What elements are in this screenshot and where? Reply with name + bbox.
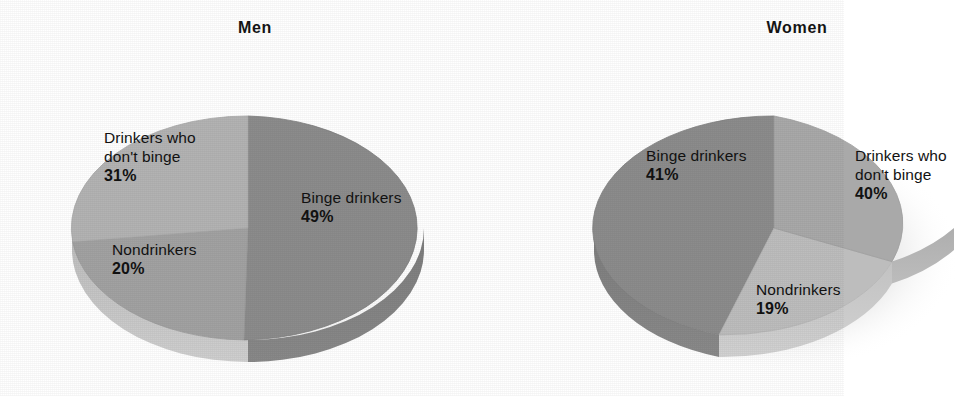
pie-slice-men-nonbinge[interactable] — [73, 228, 248, 340]
pie-chart-women: Binge drinkers 41% Drinkers who don't bi… — [568, 58, 959, 378]
pie-slice-men-nondrinkers[interactable] — [71, 116, 248, 242]
chart-title-women: Women — [615, 19, 959, 37]
pie-chart-men: Drinkers who don't binge 31% Binge drink… — [62, 58, 432, 378]
pie-svg-women — [568, 58, 959, 378]
chart-panel-women: Women — [520, 0, 844, 396]
chart-title-men: Men — [40, 19, 470, 37]
pie-svg-men — [62, 58, 432, 378]
chart-panel-men: Men — [0, 0, 430, 396]
